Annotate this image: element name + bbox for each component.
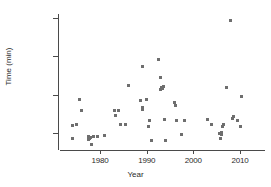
data-point (157, 58, 160, 61)
x-tick-1980 (100, 150, 101, 154)
data-point (162, 85, 165, 88)
data-point (159, 76, 162, 79)
data-point (220, 133, 223, 136)
data-point (141, 65, 144, 68)
data-point (175, 119, 178, 122)
data-point (92, 135, 95, 138)
data-point (119, 123, 122, 126)
x-tick-1990 (147, 150, 148, 154)
x-tick-2010 (240, 150, 241, 154)
x-tick-label-1990: 1990 (133, 156, 161, 165)
data-point (90, 143, 93, 146)
data-point (150, 139, 153, 142)
data-point (147, 125, 150, 128)
x-axis-line (60, 150, 265, 151)
data-point (71, 137, 74, 140)
data-point (229, 19, 232, 22)
data-point (148, 119, 151, 122)
data-point (114, 114, 117, 117)
y-axis-title: Time (min) (4, 32, 13, 102)
data-point (219, 137, 222, 140)
data-point (183, 119, 186, 122)
data-point (225, 86, 228, 89)
data-point (71, 124, 74, 127)
data-point (141, 108, 144, 111)
data-point (236, 119, 239, 122)
scatter-plot-figure: Time (min) 1000150020002500 198019902000… (0, 0, 271, 187)
data-point (210, 123, 213, 126)
data-point (78, 98, 81, 101)
data-point (127, 84, 130, 87)
x-tick-label-2000: 2000 (179, 156, 207, 165)
data-point (232, 115, 235, 118)
data-point (103, 134, 106, 137)
data-point (163, 118, 166, 121)
data-point (174, 104, 177, 107)
plot-area (58, 10, 266, 150)
data-point (222, 123, 225, 126)
data-point (113, 109, 116, 112)
x-tick-2000 (193, 150, 194, 154)
data-point (239, 125, 242, 128)
data-point (80, 109, 83, 112)
x-tick-label-2010: 2010 (226, 156, 254, 165)
data-point (96, 135, 99, 138)
data-point (75, 123, 78, 126)
x-axis-title: Year (0, 170, 271, 179)
data-point (139, 99, 142, 102)
data-point (124, 123, 127, 126)
data-point (145, 98, 148, 101)
data-point (117, 109, 120, 112)
x-tick-label-1980: 1980 (86, 156, 114, 165)
data-point (206, 118, 209, 121)
data-point (240, 95, 243, 98)
data-point (164, 139, 167, 142)
data-point (180, 133, 183, 136)
